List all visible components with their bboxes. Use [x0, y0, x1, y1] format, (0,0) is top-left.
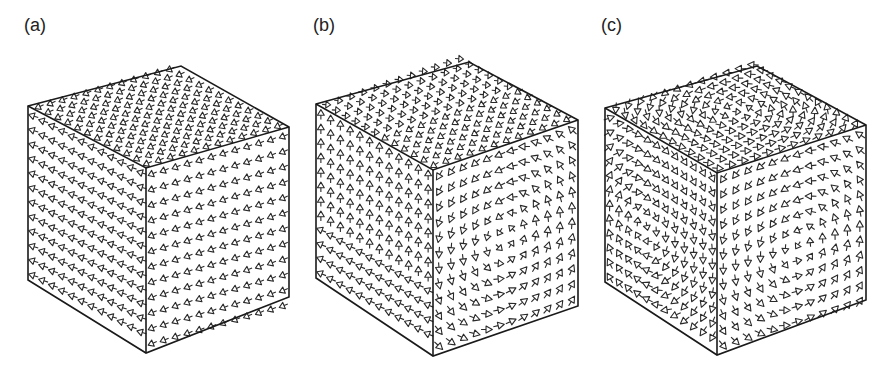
top-face-arrows	[322, 55, 571, 167]
cube-vector-field-figure	[0, 0, 887, 369]
left-face-arrows	[604, 115, 716, 341]
left-face-arrows	[29, 113, 147, 336]
right-face-arrows	[148, 133, 288, 346]
left-face-arrows	[317, 110, 433, 338]
top-face-arrows	[35, 66, 283, 167]
cube-panel-c	[604, 61, 866, 355]
cube-panel-b	[316, 55, 578, 356]
cube-panel-a	[28, 66, 289, 353]
right-face-arrows	[434, 126, 576, 349]
top-face-arrows	[613, 61, 858, 171]
